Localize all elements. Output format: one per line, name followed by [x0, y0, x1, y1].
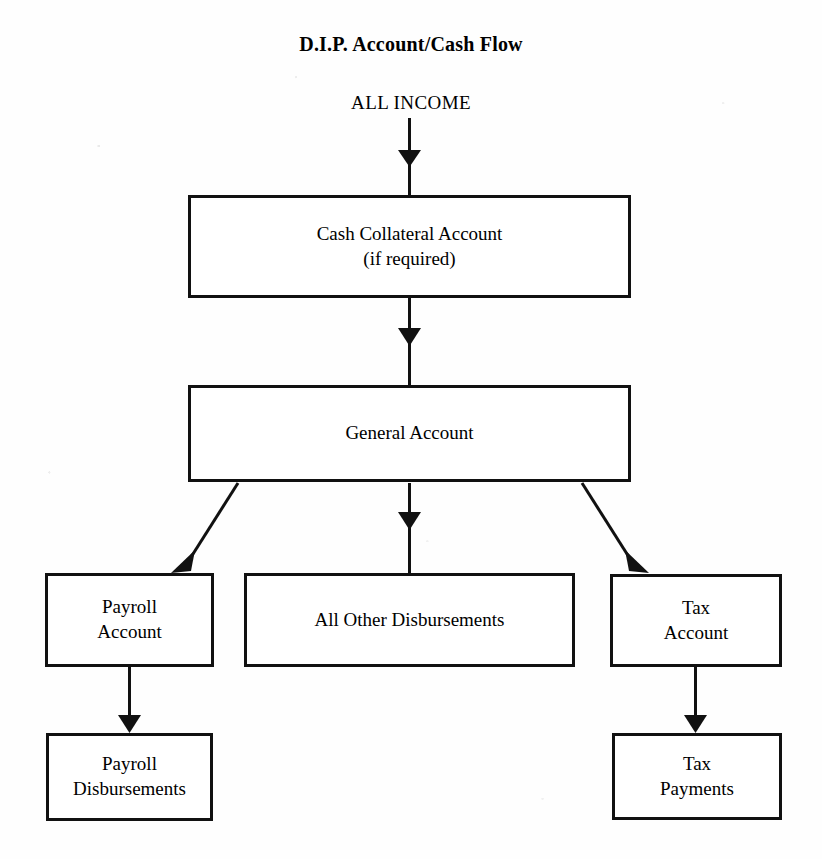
- node-label-cash-collateral-account: Cash Collateral Account (if required): [311, 222, 509, 271]
- node-cash-collateral-account[interactable]: Cash Collateral Account (if required): [188, 195, 631, 298]
- node-label-tax-payments: Tax Payments: [654, 752, 740, 801]
- node-label-tax-account: Tax Account: [658, 596, 734, 645]
- node-tax-account[interactable]: Tax Account: [610, 574, 782, 667]
- edge-general-account-to-all-other-disbursements: [398, 483, 421, 573]
- node-all-other-disbursements[interactable]: All Other Disbursements: [244, 573, 575, 667]
- edge-payroll-account-to-payroll-disbursements: [118, 667, 141, 733]
- edge-cash-collateral-to-general-account: [398, 298, 421, 385]
- node-label-payroll-account: Payroll Account: [91, 595, 167, 644]
- edge-general-account-to-tax-account: [582, 483, 649, 573]
- node-label-general-account: General Account: [339, 421, 479, 446]
- node-label-all-other-disbursements: All Other Disbursements: [309, 608, 511, 633]
- flowchart-page: D.I.P. Account/Cash Flow ALL INCOME: [0, 0, 822, 859]
- edge-general-account-to-payroll-account: [171, 483, 238, 573]
- node-tax-payments[interactable]: Tax Payments: [612, 733, 782, 820]
- edge-all-income-to-cash-collateral: [398, 118, 421, 195]
- node-payroll-disbursements[interactable]: Payroll Disbursements: [46, 733, 213, 821]
- node-general-account[interactable]: General Account: [188, 385, 631, 482]
- edge-tax-account-to-tax-payments: [684, 667, 707, 733]
- node-label-all-income: ALL INCOME: [0, 92, 822, 114]
- page-title: D.I.P. Account/Cash Flow: [0, 33, 822, 56]
- node-label-payroll-disbursements: Payroll Disbursements: [67, 752, 192, 801]
- node-payroll-account[interactable]: Payroll Account: [45, 573, 214, 667]
